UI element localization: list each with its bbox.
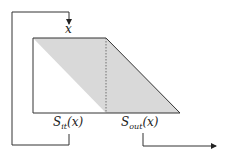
s-out-main: S — [121, 115, 129, 129]
diagram-canvas — [0, 0, 231, 153]
s-it-main: S — [53, 115, 61, 129]
output-arrow-line — [143, 133, 216, 146]
s-it-arg: (x) — [67, 115, 83, 129]
shaded-region — [33, 38, 180, 113]
s-out-label: Sout(x) — [121, 115, 159, 131]
s-out-arg: (x) — [142, 115, 158, 129]
s-out-sub: out — [129, 122, 142, 131]
input-label-x: x — [65, 22, 72, 36]
s-it-label: Sit(x) — [53, 115, 83, 131]
